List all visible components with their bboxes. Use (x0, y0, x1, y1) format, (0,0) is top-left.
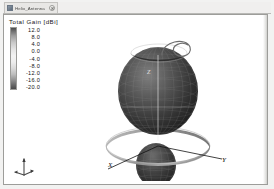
canvas-right-rail (263, 15, 267, 184)
legend-title: Total Gain [dBi] (9, 18, 58, 25)
gradient-colorbar (10, 27, 17, 90)
document-icon (7, 5, 13, 11)
colorbar-tick: -8.0 (20, 63, 40, 69)
colorbar-ticks: 12.0 8.0 4.0 0.0 -4.0 -8.0 -12.0 -16.0 -… (20, 27, 40, 90)
close-icon[interactable] (49, 5, 55, 11)
colorbar-tick: -12.0 (20, 70, 40, 76)
axis-triad-icon (12, 155, 38, 181)
colorbar-tick: 12.0 (20, 27, 40, 33)
gain-legend: Total Gain [dBi] 12.0 8.0 4.0 0.0 -4.0 -… (9, 18, 58, 90)
axis-label-y: Y (222, 157, 226, 164)
tab-helix-antenna[interactable]: Helix_Antenna (4, 2, 58, 13)
plot-canvas[interactable]: Total Gain [dBi] 12.0 8.0 4.0 0.0 -4.0 -… (3, 14, 268, 185)
colorbar-tick: -20.0 (20, 84, 40, 90)
colorbar-tick: 8.0 (20, 34, 40, 40)
colorbar-tick: 0.0 (20, 48, 40, 54)
radiation-pattern-3d[interactable]: X Y Z (100, 29, 236, 181)
legend-body: 12.0 8.0 4.0 0.0 -4.0 -8.0 -12.0 -16.0 -… (9, 27, 58, 90)
axis-label-z: Z (147, 69, 150, 76)
colorbar-tick: 4.0 (20, 41, 40, 47)
plot-window: Helix_Antenna Total Gain [dBi] 12.0 8.0 … (0, 0, 274, 189)
main-lobe (118, 44, 198, 141)
tab-label: Helix_Antenna (15, 6, 45, 11)
colorbar-tick: -4.0 (20, 56, 40, 62)
colorbar-tick: -16.0 (20, 77, 40, 83)
tab-strip: Helix_Antenna (3, 2, 271, 14)
axis-label-x: X (108, 162, 112, 169)
